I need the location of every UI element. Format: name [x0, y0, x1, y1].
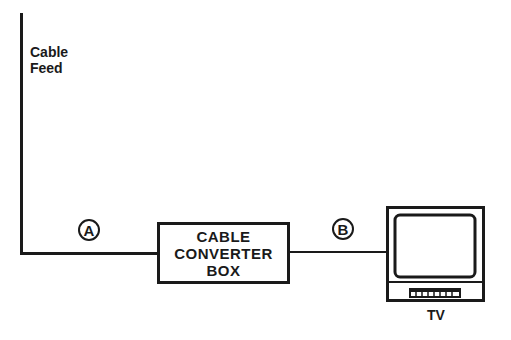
- cable-b-line: [289, 251, 388, 253]
- cable-feed-label-line2: Feed: [30, 60, 68, 76]
- converter-box-line2: CONVERTER: [174, 245, 273, 262]
- tv-drawing: [386, 206, 485, 302]
- cable-a-line: [20, 252, 158, 255]
- converter-box-line1: CABLE: [196, 228, 250, 245]
- cable-converter-box: CABLE CONVERTER BOX: [157, 222, 290, 284]
- cable-feed-label-line1: Cable: [30, 44, 68, 60]
- converter-box-line3: BOX: [206, 262, 240, 279]
- connection-a-marker: A: [78, 219, 100, 241]
- connection-b-marker: B: [332, 218, 354, 240]
- tv-icon: [386, 206, 485, 302]
- connection-b-label: B: [338, 221, 349, 238]
- cable-feed-label: Cable Feed: [30, 44, 68, 76]
- cable-feed-line: [20, 13, 23, 255]
- tv-label: TV: [418, 307, 454, 323]
- connection-a-label: A: [84, 222, 95, 239]
